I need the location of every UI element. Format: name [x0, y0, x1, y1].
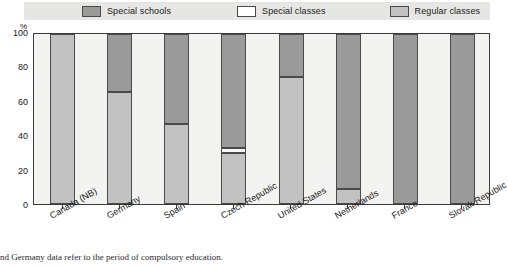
legend-swatch-regular-classes: [390, 6, 409, 17]
bar-united-states[interactable]: [279, 34, 304, 204]
legend-label-special-schools: Special schools: [107, 6, 171, 16]
legend-item-special-classes: Special classes: [237, 6, 326, 17]
y-axis-tick-label: 40: [2, 131, 28, 141]
legend-item-special-schools: Special schools: [82, 6, 171, 17]
plot-area: [33, 33, 490, 205]
legend-swatch-special-classes: [237, 6, 256, 17]
bar-segment-regular-classes: [165, 124, 188, 204]
y-axis-tick-label: 100: [2, 28, 28, 38]
bar-segment-special-schools: [451, 34, 474, 204]
bar-segment-special-schools: [108, 34, 131, 92]
bar-series-container: [34, 34, 489, 204]
bar-segment-special-schools: [222, 34, 245, 148]
bar-france[interactable]: [393, 34, 418, 204]
legend-label-special-classes: Special classes: [262, 6, 326, 16]
bar-segment-special-schools: [165, 34, 188, 124]
legend-item-regular-classes: Regular classes: [390, 6, 481, 17]
y-axis-tick-label: 0: [2, 200, 28, 210]
y-axis-tick-label: 20: [2, 166, 28, 176]
bar-segment-regular-classes: [222, 153, 245, 204]
chart-legend: Special schools Special classes Regular …: [24, 2, 490, 20]
y-axis-tick-label: 60: [2, 97, 28, 107]
bar-segment-special-schools: [280, 34, 303, 77]
bar-canada-nb[interactable]: [50, 34, 75, 204]
bar-slovak-republic[interactable]: [450, 34, 475, 204]
bar-germany[interactable]: [107, 34, 132, 204]
legend-label-regular-classes: Regular classes: [415, 6, 481, 16]
y-axis-tick-label: 80: [2, 62, 28, 72]
chart-footnote: nd Germany data refer to the period of c…: [0, 252, 496, 262]
bar-segment-special-schools: [337, 34, 360, 189]
bar-netherlands[interactable]: [336, 34, 361, 204]
legend-swatch-special-schools: [82, 6, 101, 17]
bar-segment-regular-classes: [108, 92, 131, 204]
bar-segment-special-schools: [394, 34, 417, 204]
bar-segment-regular-classes: [280, 77, 303, 205]
bar-czech-republic[interactable]: [221, 34, 246, 204]
bar-spain[interactable]: [164, 34, 189, 204]
bar-segment-regular-classes: [51, 34, 74, 204]
